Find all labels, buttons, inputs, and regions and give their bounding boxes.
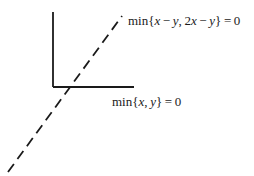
figure-canvas: min{x − y, 2x − y} = 0 min{x, y} = 0	[0, 0, 254, 176]
upper-term1-operator: −	[160, 13, 173, 28]
lower-equals-sign: =	[162, 94, 175, 109]
dashed-diagonal-line	[8, 16, 122, 172]
lower-value: 0	[175, 94, 182, 109]
upper-term2-operator: −	[197, 13, 210, 28]
upper-min-function: min	[128, 13, 148, 28]
upper-equation-label: min{x − y, 2x − y} = 0	[128, 14, 240, 27]
lower-equation-label: min{x, y} = 0	[112, 95, 181, 108]
upper-equals-sign: =	[221, 13, 234, 28]
upper-value: 0	[234, 13, 241, 28]
lower-min-function: min	[112, 94, 132, 109]
